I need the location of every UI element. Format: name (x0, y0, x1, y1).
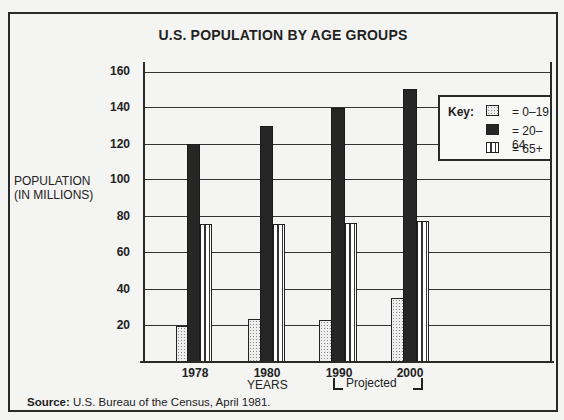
y-tick-100: 100 (96, 172, 130, 186)
gridline-80 (145, 216, 550, 217)
projected-bracket-right (413, 378, 423, 390)
y-axis-label-line2: (IN MILLIONS) (14, 188, 104, 202)
bar-1980-65plus (273, 224, 285, 362)
chart-title: U.S. POPULATION BY AGE GROUPS (0, 27, 564, 43)
x-axis-label: YEARS (247, 378, 288, 392)
legend-key: Key: = 0–19 = 20–64 = 65+ (438, 95, 552, 161)
legend-swatch-0-19 (486, 105, 499, 116)
bar-1990-65plus (345, 223, 357, 362)
bar-1978-65plus (200, 224, 212, 362)
gridline-160 (145, 72, 550, 73)
projected-bracket-left (333, 378, 343, 390)
legend-label-0-19: = 0–19 (512, 105, 549, 119)
y-axis-label-line1: POPULATION (14, 174, 104, 188)
y-tick-120: 120 (96, 137, 130, 151)
y-tick-40: 40 (96, 282, 130, 296)
legend-title: Key: (448, 105, 474, 119)
bar-2000-20-64 (403, 89, 417, 362)
bar-1990-20-64 (331, 108, 345, 362)
source-text: U.S. Bureau of the Census, April 1981. (70, 396, 271, 408)
bar-1980-20-64 (260, 126, 273, 362)
y-tick-20: 20 (96, 318, 130, 332)
bar-1978-20-64 (187, 144, 200, 362)
x-axis-line (140, 361, 554, 363)
legend-swatch-65plus (486, 142, 499, 153)
x-tick-1978: 1978 (170, 366, 220, 380)
y-tick-60: 60 (96, 245, 130, 259)
y-axis-label: POPULATION (IN MILLIONS) (14, 174, 104, 202)
chart-title-text: U.S. POPULATION BY AGE GROUPS (158, 27, 407, 43)
projected-label: Projected (346, 376, 397, 390)
source-label: Source: (27, 396, 70, 408)
source-note: Source: U.S. Bureau of the Census, April… (27, 396, 271, 408)
y-tick-160: 160 (96, 64, 130, 78)
legend-swatch-20-64 (486, 124, 499, 135)
y-tick-140: 140 (96, 100, 130, 114)
gridline-100 (145, 179, 550, 180)
legend-label-65plus: = 65+ (512, 142, 543, 156)
y-tick-80: 80 (96, 209, 130, 223)
bar-2000-65plus (417, 221, 429, 362)
